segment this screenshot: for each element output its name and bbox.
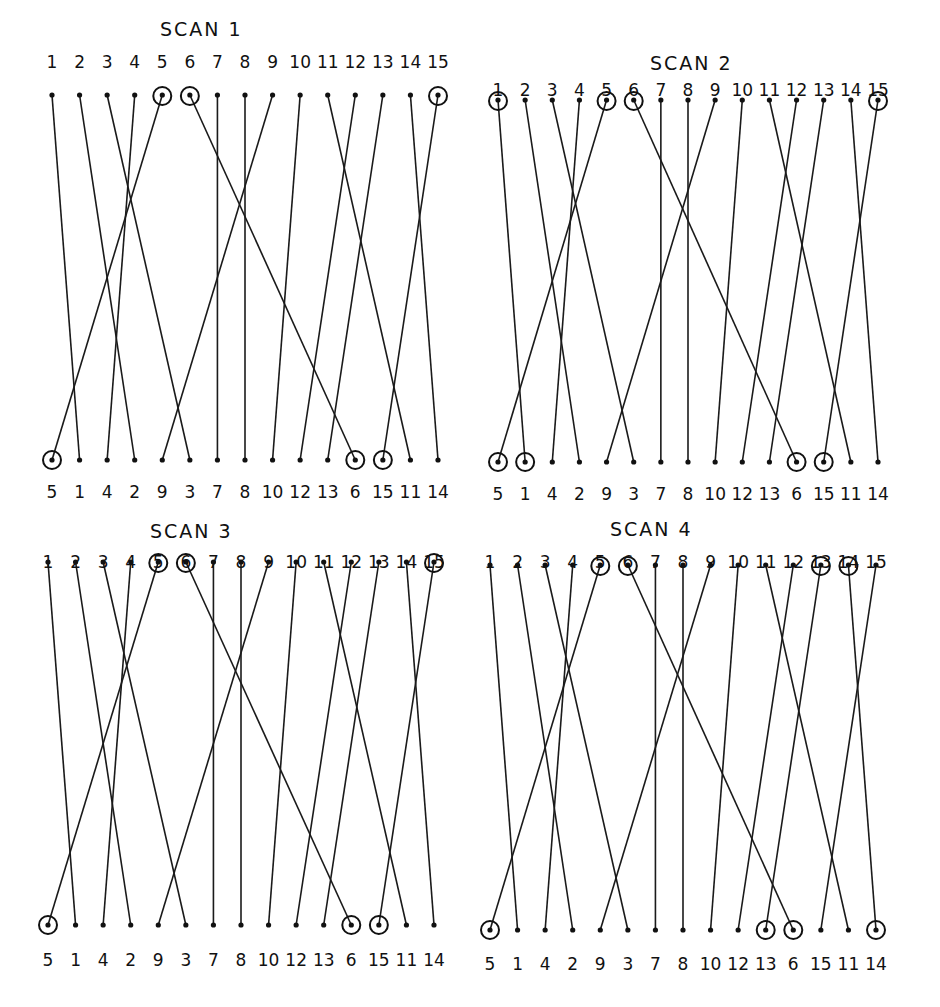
top-node <box>570 562 575 567</box>
connection-line <box>769 100 850 462</box>
bottom-node <box>846 927 851 932</box>
bottom-node <box>160 457 165 462</box>
connection-line <box>296 562 351 925</box>
bottom-node <box>435 457 440 462</box>
bottom-node <box>487 927 492 932</box>
bottom-node <box>821 459 826 464</box>
bottom-node <box>404 922 409 927</box>
scan-permutation-diagram: SCAN 1 123456789101112131415514293781012… <box>0 0 940 1007</box>
bottom-label: 1 <box>520 484 531 504</box>
connection-line <box>300 95 355 460</box>
bottom-label: 15 <box>813 484 835 504</box>
bottom-label: 7 <box>650 954 661 974</box>
connection-line <box>410 95 438 460</box>
bottom-label: 5 <box>43 950 54 970</box>
top-node <box>435 92 440 97</box>
bottom-label: 10 <box>704 484 726 504</box>
top-label: 10 <box>731 80 753 100</box>
bottom-label: 11 <box>396 950 418 970</box>
bottom-label: 5 <box>485 954 496 974</box>
connection-line <box>552 100 633 462</box>
panel-title: SCAN 4 <box>610 518 693 540</box>
bottom-label: 8 <box>683 484 694 504</box>
bottom-label: 12 <box>731 484 753 504</box>
bottom-label: 6 <box>346 950 357 970</box>
top-node <box>680 562 685 567</box>
bottom-label: 14 <box>867 484 889 504</box>
bottom-node <box>736 927 741 932</box>
top-node <box>577 97 582 102</box>
top-node <box>49 92 54 97</box>
connection-line <box>628 565 793 930</box>
bottom-label: 10 <box>700 954 722 974</box>
connection-line <box>48 562 158 925</box>
bottom-label: 9 <box>157 482 168 502</box>
panel-title: SCAN 2 <box>650 52 733 74</box>
bottom-label: 2 <box>567 954 578 974</box>
top-node <box>821 97 826 102</box>
bottom-label: 1 <box>512 954 523 974</box>
connection-line <box>552 100 579 462</box>
connection-line <box>269 562 297 925</box>
top-node <box>211 559 216 564</box>
bottom-label: 12 <box>289 482 311 502</box>
top-label: 11 <box>317 52 339 72</box>
top-label: 10 <box>727 552 749 572</box>
top-node <box>183 559 188 564</box>
top-label: 1 <box>493 80 504 100</box>
connection-line <box>406 562 434 925</box>
top-node <box>658 97 663 102</box>
top-node <box>298 92 303 97</box>
bottom-node <box>132 457 137 462</box>
bottom-node <box>515 927 520 932</box>
connection-line <box>742 100 796 462</box>
connection-line <box>821 565 876 930</box>
connection-line <box>383 95 438 460</box>
bottom-node <box>685 459 690 464</box>
bottom-node <box>577 459 582 464</box>
bottom-label: 7 <box>655 484 666 504</box>
top-label: 2 <box>512 552 523 572</box>
bottom-node <box>740 459 745 464</box>
top-label: 8 <box>678 552 689 572</box>
top-node <box>848 97 853 102</box>
bottom-label: 15 <box>810 954 832 974</box>
connection-line <box>103 562 186 925</box>
top-label: 11 <box>755 552 777 572</box>
bottom-label: 7 <box>208 950 219 970</box>
top-node <box>763 562 768 567</box>
bottom-label: 5 <box>493 484 504 504</box>
bottom-label: 13 <box>317 482 339 502</box>
top-node <box>376 559 381 564</box>
bottom-label: 3 <box>628 484 639 504</box>
connection-line <box>545 565 628 930</box>
connection-line <box>766 565 821 930</box>
bottom-node <box>266 922 271 927</box>
bottom-node <box>242 457 247 462</box>
bottom-label: 8 <box>240 482 251 502</box>
bottom-label: 4 <box>540 954 551 974</box>
connection-line <box>273 95 301 460</box>
bottom-node <box>653 927 658 932</box>
connection-line <box>52 95 162 460</box>
connection-line <box>851 100 878 462</box>
bottom-node <box>523 459 528 464</box>
top-label: 13 <box>372 52 394 72</box>
top-label: 15 <box>427 52 449 72</box>
bottom-label: 13 <box>759 484 781 504</box>
bottom-node <box>658 459 663 464</box>
top-node <box>242 92 247 97</box>
top-node <box>215 92 220 97</box>
top-node <box>238 559 243 564</box>
bottom-label: 12 <box>727 954 749 974</box>
top-node <box>187 92 192 97</box>
connection-line <box>328 95 411 460</box>
bottom-label: 2 <box>574 484 585 504</box>
top-label: 7 <box>650 552 661 572</box>
bottom-label: 3 <box>622 954 633 974</box>
bottom-label: 13 <box>755 954 777 974</box>
top-label: 8 <box>240 52 251 72</box>
top-node <box>105 92 110 97</box>
top-node <box>604 97 609 102</box>
panel-scan-1: SCAN 1 123456789101112131415514293781012… <box>43 18 449 502</box>
